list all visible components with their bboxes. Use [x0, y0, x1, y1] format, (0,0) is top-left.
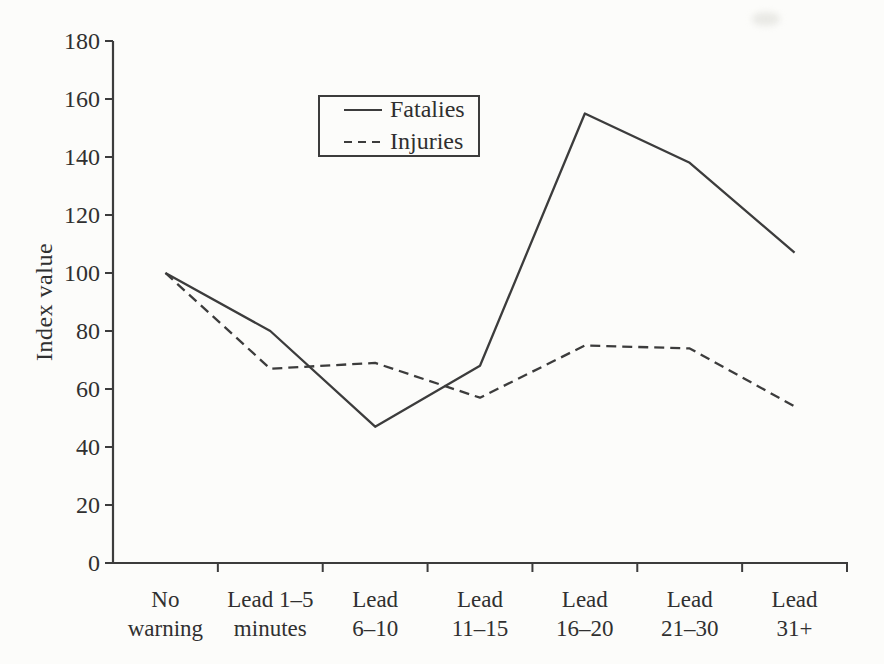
- legend-item-fatalies: Fatalies: [344, 97, 478, 124]
- x-category-label: Nowarning: [128, 587, 204, 641]
- legend: Fatalies Injuries: [318, 95, 480, 157]
- y-tick-label: 180: [64, 28, 100, 54]
- y-tick-label: 20: [76, 492, 100, 518]
- x-category-label: Lead21–30: [661, 587, 719, 641]
- legend-label-injuries: Injuries: [390, 129, 463, 156]
- dashed-line-sample-icon: [344, 141, 382, 143]
- chart-page: 020406080100120140160180NowarningLead 1–…: [0, 0, 884, 664]
- x-category-label: Lead11–15: [452, 587, 509, 641]
- legend-label-fatalies: Fatalies: [390, 97, 465, 124]
- y-tick-label: 0: [88, 550, 100, 576]
- series-line-injuries: [165, 273, 794, 406]
- legend-item-injuries: Injuries: [344, 129, 478, 156]
- y-tick-label: 140: [64, 144, 100, 170]
- y-tick-label: 160: [64, 86, 100, 112]
- y-tick-label: 100: [64, 260, 100, 286]
- x-category-label: Lead 1–5minutes: [227, 587, 313, 641]
- y-tick-label: 40: [76, 434, 100, 460]
- series-line-fatalies: [165, 114, 794, 427]
- y-axis-title: Index value: [31, 243, 58, 361]
- x-category-label: Lead6–10: [352, 587, 398, 641]
- solid-line-sample-icon: [344, 109, 382, 111]
- x-category-label: Lead16–20: [556, 587, 614, 641]
- y-tick-label: 60: [76, 376, 100, 402]
- y-tick-label: 80: [76, 318, 100, 344]
- x-category-label: Lead31+: [772, 587, 818, 641]
- y-tick-label: 120: [64, 202, 100, 228]
